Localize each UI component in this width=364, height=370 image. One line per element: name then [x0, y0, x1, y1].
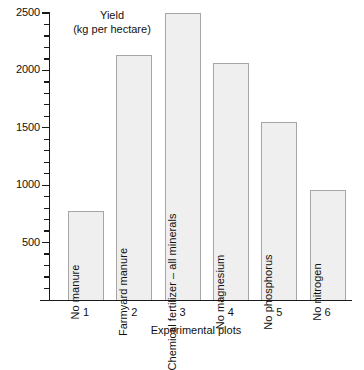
- bar: No nitrogen: [310, 190, 346, 300]
- y-tick-minor: [44, 116, 50, 117]
- y-tick-minor: [44, 104, 50, 105]
- bar: No phosphorus: [261, 122, 297, 300]
- y-axis-line: [49, 13, 50, 301]
- y-tick-minor: [44, 208, 50, 209]
- y-tick-minor: [44, 173, 50, 174]
- y-tick-label: 1500: [0, 122, 40, 133]
- bar-label-text: No magnesium: [214, 255, 225, 330]
- x-tick-label: 1: [66, 306, 106, 318]
- bar-label: No magnesium: [220, 255, 231, 330]
- y-tick-label: 2000: [0, 64, 40, 75]
- bar-label-text: Farmyard manure: [118, 248, 129, 336]
- y-tick-major: [42, 242, 50, 243]
- x-axis-title: Experimental plots: [40, 324, 352, 336]
- y-tick-minor: [44, 139, 50, 140]
- y-tick-label: 2500: [0, 7, 40, 18]
- bar: Farmyard manure: [116, 55, 152, 300]
- bar-label: No phosphorus: [268, 254, 279, 329]
- y-tick-minor: [44, 288, 50, 289]
- y-tick-minor: [44, 162, 50, 163]
- y-tick-minor: [44, 219, 50, 220]
- y-tick-minor: [44, 276, 50, 277]
- x-tick-label: 6: [308, 306, 348, 318]
- x-tick-label: 5: [259, 306, 299, 318]
- y-tick-minor: [44, 230, 50, 231]
- y-tick-minor: [44, 58, 50, 59]
- y-tick-major: [42, 127, 50, 128]
- y-tick-label-text: 1000: [2, 179, 40, 190]
- y-tick-minor: [44, 150, 50, 151]
- y-tick-minor: [44, 24, 50, 25]
- y-tick-minor: [44, 81, 50, 82]
- y-tick-minor: [44, 253, 50, 254]
- y-tick-label-text: 500: [2, 237, 40, 248]
- y-tick-major: [42, 185, 50, 186]
- y-tick-minor: [44, 196, 50, 197]
- x-tick-label: 4: [211, 306, 251, 318]
- bar-label-text: Chemical fertilizer – all minerals: [166, 214, 177, 370]
- bar-label-text: No phosphorus: [263, 254, 274, 329]
- chart-title-main: Yield: [100, 9, 124, 21]
- chart-title-units: (kg per hectare): [58, 22, 166, 36]
- bar: No manure: [68, 211, 104, 300]
- y-tick-major: [42, 12, 50, 13]
- bar-label: Chemical fertilizer – all minerals: [172, 214, 183, 370]
- y-tick-minor: [44, 35, 50, 36]
- y-tick-major: [42, 70, 50, 71]
- y-tick-minor: [44, 265, 50, 266]
- y-tick-label: 500: [0, 237, 40, 248]
- y-tick-label-text: 2500: [2, 7, 40, 18]
- bar: Chemical fertilizer – all minerals: [165, 13, 201, 300]
- bar: No magnesium: [213, 63, 249, 300]
- bar-label: Farmyard manure: [123, 248, 134, 336]
- y-tick-minor: [44, 47, 50, 48]
- x-axis-line: [40, 300, 352, 301]
- x-tick-label: 3: [163, 306, 203, 318]
- y-tick-label: 1000: [0, 179, 40, 190]
- x-tick-label: 2: [114, 306, 154, 318]
- y-tick-minor: [44, 93, 50, 94]
- y-tick-label-text: 1500: [2, 122, 40, 133]
- y-tick-label-text: 2000: [2, 64, 40, 75]
- chart-title: Yield (kg per hectare): [58, 8, 166, 36]
